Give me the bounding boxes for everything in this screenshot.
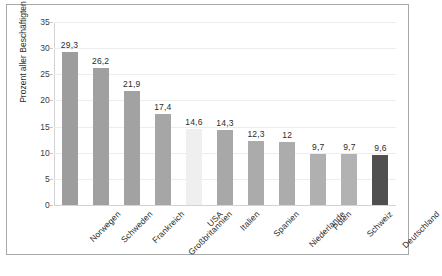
bar-column[interactable]: 9,7	[341, 22, 357, 205]
y-tick-mark-10	[50, 153, 53, 154]
bar-italien[interactable]	[217, 130, 233, 205]
y-tick-mark-30	[50, 48, 53, 49]
x-axis-category-labels: NorwegenSchwedenFrankreichGroßbritannien…	[54, 206, 396, 260]
bar-value-label: 14,6	[185, 117, 202, 127]
x-label-schweiz: Schweiz	[365, 209, 395, 239]
bar-column[interactable]: 9,6	[372, 22, 388, 205]
chart-frame: Prozent aller Beschäftigten 051015202530…	[6, 4, 409, 255]
bar-column[interactable]: 26,2	[93, 22, 109, 205]
bar-value-label: 26,2	[92, 56, 109, 66]
bar-value-label: 9,7	[343, 142, 355, 152]
y-tick-label-20: 20	[10, 95, 50, 105]
y-tick-mark-35	[50, 22, 53, 23]
x-label-deutschland: Deutschland	[401, 209, 442, 250]
bar-spanien[interactable]	[248, 141, 264, 205]
y-tick-label-0: 0	[10, 200, 50, 210]
y-axis-tick-labels: 05101520253035	[7, 22, 50, 205]
bar-column[interactable]: 12	[279, 22, 295, 205]
bar-column[interactable]: 9,7	[310, 22, 326, 205]
bar-column[interactable]: 29,3	[62, 22, 78, 205]
x-label-frankreich: Frankreich	[150, 209, 186, 245]
bar-usa[interactable]	[186, 129, 202, 205]
y-tick-mark-5	[50, 179, 53, 180]
bar-column[interactable]: 17,4	[155, 22, 171, 205]
x-label-italien: Italien	[238, 209, 262, 233]
bar-value-label: 17,4	[154, 102, 171, 112]
bar-norwegen[interactable]	[62, 52, 78, 205]
x-label-schweden: Schweden	[118, 209, 154, 245]
bar-schweden[interactable]	[93, 68, 109, 205]
bar-column[interactable]: 12,3	[248, 22, 264, 205]
bar-niederlande[interactable]	[279, 142, 295, 205]
y-tick-mark-25	[50, 74, 53, 75]
y-tick-label-35: 35	[10, 17, 50, 27]
bar-value-label: 12	[282, 130, 292, 140]
bar-column[interactable]: 14,6	[186, 22, 202, 205]
y-tick-label-10: 10	[10, 148, 50, 158]
y-tick-label-15: 15	[10, 122, 50, 132]
bar-value-label: 21,9	[123, 79, 140, 89]
bar-polen[interactable]	[310, 154, 326, 205]
bar-value-label: 12,3	[247, 129, 264, 139]
y-tick-mark-20	[50, 100, 53, 101]
bar-value-label: 9,6	[374, 143, 386, 153]
y-tick-label-25: 25	[10, 69, 50, 79]
plot-area: 29,326,221,917,414,614,312,3129,79,79,6	[54, 22, 396, 205]
y-tick-label-5: 5	[10, 174, 50, 184]
bar-column[interactable]: 14,3	[217, 22, 233, 205]
bar-deutschland[interactable]	[372, 155, 388, 205]
bar-schweiz[interactable]	[341, 154, 357, 205]
y-tick-mark-0	[50, 205, 53, 206]
bar-value-label: 14,3	[216, 118, 233, 128]
x-label-polen: Polen	[331, 209, 354, 232]
y-tick-mark-15	[50, 127, 53, 128]
bar-column[interactable]: 21,9	[124, 22, 140, 205]
y-tick-label-30: 30	[10, 43, 50, 53]
x-label-norwegen: Norwegen	[87, 209, 122, 244]
bar-value-label: 29,3	[61, 40, 78, 50]
bar-großbritannien[interactable]	[155, 114, 171, 205]
bar-value-label: 9,7	[312, 142, 324, 152]
x-label-spanien: Spanien	[271, 209, 301, 239]
bar-frankreich[interactable]	[124, 91, 140, 206]
